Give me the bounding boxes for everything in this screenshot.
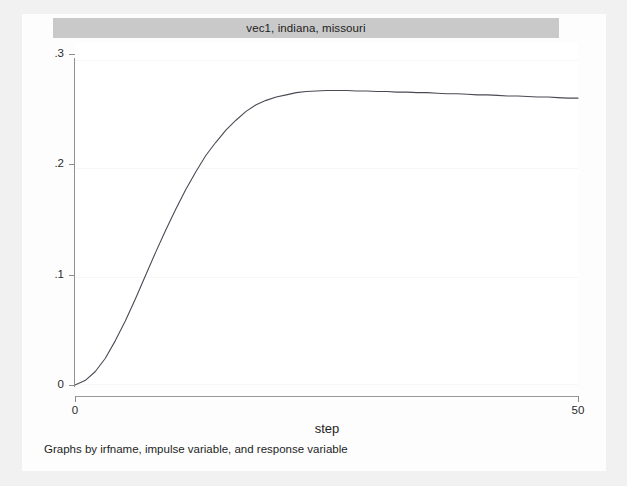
y-tick-mark — [69, 164, 75, 165]
graph-page: vec1, indiana, missouri .3.2.10 050 step… — [0, 0, 627, 486]
y-tick-label: .1 — [20, 268, 64, 280]
x-tick-mark — [75, 396, 76, 402]
y-tick-mark — [69, 275, 75, 276]
y-tick-mark — [69, 385, 75, 386]
x-axis-title: step — [75, 421, 579, 436]
irf-line-series — [75, 43, 578, 385]
y-tick-label: .2 — [20, 157, 64, 169]
y-tick-label: 0 — [20, 378, 64, 390]
graph-note: Graphs by irfname, impulse variable, and… — [44, 443, 348, 455]
panel-title-bar: vec1, indiana, missouri — [53, 18, 559, 38]
y-axis-line — [74, 58, 75, 387]
x-tick-mark — [578, 396, 579, 402]
y-tick-label: .3 — [20, 47, 64, 59]
x-tick-label: 0 — [55, 404, 95, 416]
panel-title-text: vec1, indiana, missouri — [246, 22, 365, 34]
x-tick-label: 50 — [558, 404, 598, 416]
x-axis-line — [75, 396, 579, 397]
plot-area — [75, 43, 578, 385]
y-tick-mark — [69, 54, 75, 55]
